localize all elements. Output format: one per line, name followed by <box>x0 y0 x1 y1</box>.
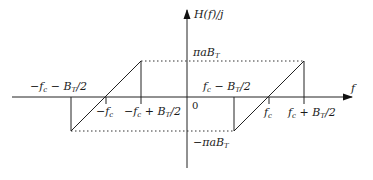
y-axis-label: H(f)/j <box>193 8 224 21</box>
transfer-function-diagram: H(f)/j f 0 πaBT −πaBT −fc − BT/2 −fc −fc… <box>0 0 373 180</box>
pos-center-label: fc <box>263 106 272 120</box>
neg-inner-label: −fc + BT/2 <box>124 105 181 119</box>
pos-inner-label: fc − BT/2 <box>202 80 251 94</box>
top-level-label: πaBT <box>192 46 221 60</box>
bottom-level-label: −πaBT <box>193 136 230 150</box>
neg-center-label: −fc <box>96 105 113 119</box>
neg-outer-label: −fc − BT/2 <box>30 80 87 94</box>
pos-outer-label: fc + BT/2 <box>287 106 336 120</box>
pos-band-ramp <box>234 61 304 131</box>
origin-label: 0 <box>192 100 198 111</box>
x-axis-label: f <box>350 82 357 95</box>
neg-band-ramp <box>71 61 141 131</box>
